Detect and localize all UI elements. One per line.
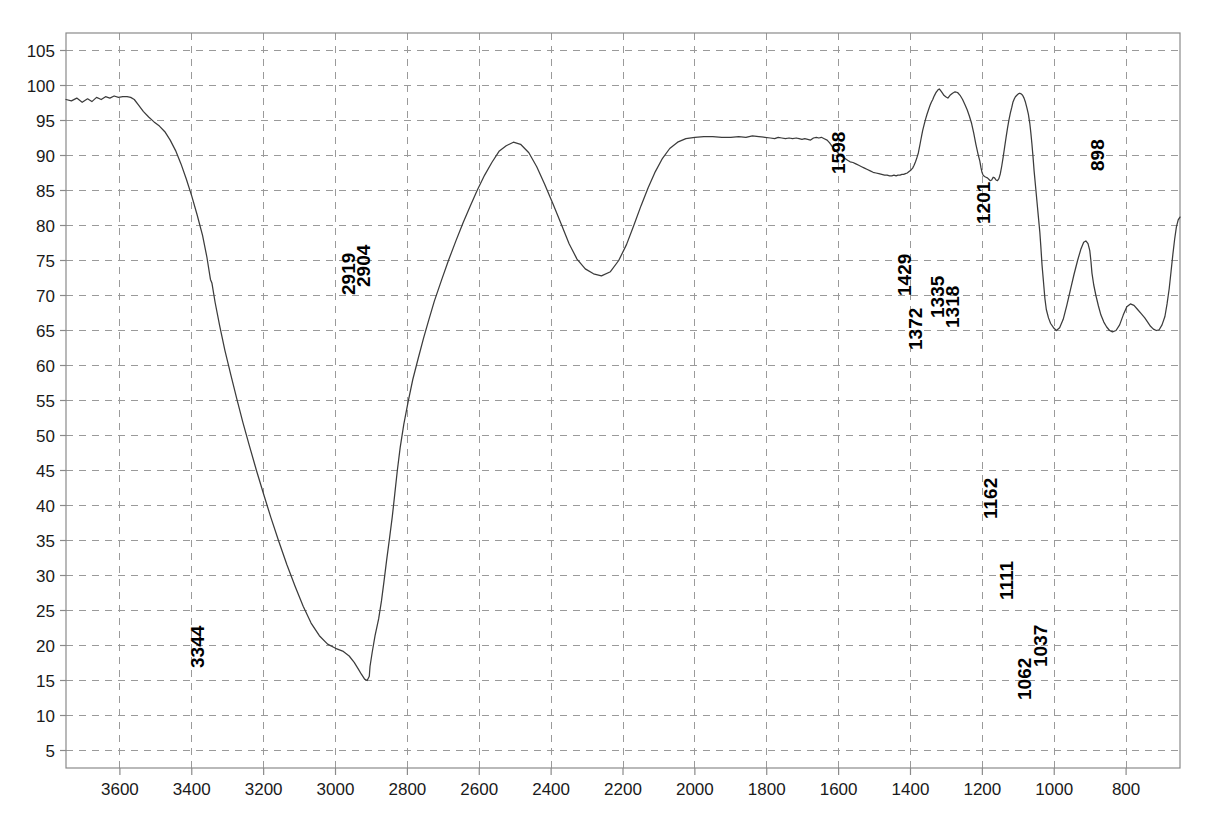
peak-label-text: 3344 — [187, 625, 208, 668]
x-tick-label: 1800 — [748, 780, 786, 799]
y-tick-label: 80 — [36, 217, 55, 236]
x-tick-label: 2400 — [532, 780, 570, 799]
peak-label-text: 2919 — [338, 253, 359, 295]
peak-label-1598: 1598 — [828, 132, 849, 174]
y-tick-label: 30 — [36, 567, 55, 586]
peak-label-1318: 1318 — [942, 286, 963, 328]
y-tick-label: 40 — [36, 497, 55, 516]
x-axis-tick-labels: 3600340032003000280026002400220020001800… — [101, 780, 1140, 799]
ftir-spectrum-chart: 5101520253035404550556065707580859095100… — [0, 0, 1208, 822]
x-tick-label: 1400 — [892, 780, 930, 799]
peak-label-1162: 1162 — [980, 478, 1001, 519]
y-tick-label: 35 — [36, 532, 55, 551]
peak-label-text: 1429 — [894, 254, 915, 296]
peak-label-text: 1318 — [942, 286, 963, 328]
y-tick-label: 95 — [36, 112, 55, 131]
peak-label-text: 1062 — [1014, 658, 1035, 700]
x-tick-label: 800 — [1112, 780, 1140, 799]
x-tick-label: 3600 — [101, 780, 139, 799]
spectrum-plot-svg: 5101520253035404550556065707580859095100… — [0, 0, 1208, 822]
peak-label-1429: 1429 — [894, 254, 915, 296]
peak-label-text: 1162 — [980, 478, 1001, 519]
peak-label-text: 1598 — [828, 132, 849, 174]
y-tick-label: 100 — [27, 77, 55, 96]
y-tick-label: 60 — [36, 357, 55, 376]
y-tick-label: 5 — [46, 742, 55, 761]
x-tick-label: 1600 — [820, 780, 858, 799]
y-tick-label: 75 — [36, 252, 55, 271]
x-tick-label: 2600 — [460, 780, 498, 799]
y-tick-label: 105 — [27, 42, 55, 61]
peak-label-1201: 1201 — [973, 181, 994, 224]
y-tick-label: 45 — [36, 462, 55, 481]
y-tick-label: 20 — [36, 637, 55, 656]
y-tick-label: 85 — [36, 182, 55, 201]
x-tick-label: 1200 — [963, 780, 1001, 799]
y-tick-label: 25 — [36, 602, 55, 621]
x-tick-label: 3200 — [245, 780, 283, 799]
peak-label-text: 1111 — [996, 560, 1017, 600]
peak-label-898: 898 — [1087, 139, 1108, 171]
y-tick-label: 50 — [36, 427, 55, 446]
peak-label-text: 898 — [1087, 139, 1108, 171]
x-tick-label: 3000 — [317, 780, 355, 799]
peak-label-3344: 3344 — [187, 625, 208, 668]
peak-label-text: 1201 — [973, 181, 994, 224]
x-tick-label: 2800 — [388, 780, 426, 799]
y-tick-label: 70 — [36, 287, 55, 306]
peak-label-1372: 1372 — [905, 308, 926, 350]
x-tick-label: 1000 — [1035, 780, 1073, 799]
y-tick-label: 10 — [36, 707, 55, 726]
x-tick-label: 2200 — [604, 780, 642, 799]
x-tick-label: 2000 — [676, 780, 714, 799]
y-tick-label: 65 — [36, 322, 55, 341]
y-tick-label: 90 — [36, 147, 55, 166]
y-tick-label: 15 — [36, 672, 55, 691]
peak-label-1062: 1062 — [1014, 658, 1035, 700]
peak-label-text: 1372 — [905, 308, 926, 350]
x-tick-label: 3400 — [173, 780, 211, 799]
peak-label-1111: 1111 — [996, 560, 1017, 600]
y-tick-label: 55 — [36, 392, 55, 411]
peak-label-2919: 2919 — [338, 253, 359, 295]
